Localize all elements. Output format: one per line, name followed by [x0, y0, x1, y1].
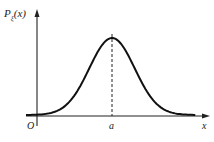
- y-axis-label-paren: (x): [14, 7, 27, 20]
- y-axis-label: Pξ(x): [3, 7, 26, 22]
- x-axis-arrow: [202, 114, 210, 119]
- origin-label: O: [27, 120, 34, 131]
- x-axis-label: x: [201, 120, 207, 131]
- density-curve: [26, 38, 195, 115]
- x-tick-label-a: a: [109, 120, 114, 131]
- normal-distribution-diagram: Pξ(x) O a x: [0, 0, 214, 142]
- y-axis-arrow: [35, 9, 40, 17]
